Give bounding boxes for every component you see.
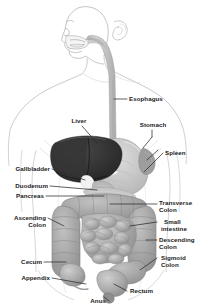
- label-pancreas: Pancreas: [4, 192, 44, 199]
- rectum-shape: [97, 270, 128, 297]
- label-stomach: Stomach: [133, 121, 173, 128]
- label-gallbladder: Gallbladder: [4, 165, 50, 172]
- label-transverse-colon-line2: Colon: [159, 206, 177, 213]
- label-rectum: Rectum: [130, 287, 153, 294]
- label-cecum: Cecum: [4, 258, 42, 265]
- label-appendix: Appendix: [4, 274, 50, 281]
- label-small-intestine-line2: intestine: [161, 225, 187, 232]
- spleen-shape: [139, 148, 155, 175]
- digestive-system-diagram: Esophagus Stomach Liver Spleen Gallbladd…: [0, 0, 211, 308]
- label-descending-colon-line2: Colon: [159, 243, 177, 250]
- label-anus: Anus: [68, 297, 106, 304]
- label-esophagus: Esophagus: [129, 95, 163, 102]
- label-liver: Liver: [62, 117, 96, 124]
- label-sigmoid-colon-line2: Colon: [161, 261, 179, 268]
- label-spleen: Spleen: [165, 149, 186, 156]
- label-duodenum: Duodenum: [4, 182, 48, 189]
- label-ascending-colon-line2: Colon: [2, 221, 46, 228]
